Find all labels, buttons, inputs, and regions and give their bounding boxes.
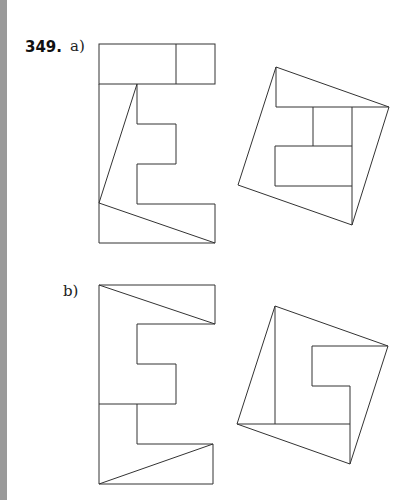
part-a-e-figure [99, 44, 215, 243]
part-a-cut-upper [99, 84, 137, 203]
part-a-inner-rect [275, 146, 352, 186]
part-a-top-bar [99, 44, 215, 84]
part-a-e-outline [99, 84, 215, 243]
part-b-cut-upper [99, 285, 215, 324]
part-a-cut-lower [99, 203, 215, 243]
part-a-square-figure [238, 67, 389, 225]
dissection-diagram [0, 0, 410, 500]
part-b-cut-lower [99, 444, 213, 484]
part-b-square-figure [237, 306, 388, 464]
part-b-e-outline [99, 285, 215, 484]
part-b-e-figure [99, 285, 215, 484]
